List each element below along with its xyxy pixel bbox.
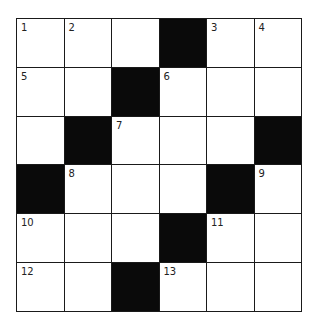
clue-number: 13 [164,266,177,278]
grid-cell-r4-c5[interactable] [255,214,302,262]
crossword-grid: 1 2 3 4 5 6 7 8 9 10 11 12 13 [16,18,302,312]
clue-number: 4 [259,22,265,34]
black-square [207,165,254,213]
grid-cell-r1-c5[interactable] [255,68,302,116]
grid-cell-r2-c0[interactable] [17,117,64,165]
grid-cell-r0-c5[interactable]: 4 [255,19,302,67]
grid-cell-r4-c0[interactable]: 10 [17,214,64,262]
grid-cell-r3-c5[interactable]: 9 [255,165,302,213]
clue-number: 9 [259,168,265,180]
black-square [112,263,159,311]
grid-cell-r4-c1[interactable] [65,214,112,262]
grid-cell-r2-c2[interactable]: 7 [112,117,159,165]
grid-cell-r5-c5[interactable] [255,263,302,311]
grid-cell-r1-c4[interactable] [207,68,254,116]
clue-number: 1 [21,22,27,34]
clue-number: 6 [164,71,170,83]
clue-number: 12 [21,266,34,278]
grid-cell-r1-c3[interactable]: 6 [160,68,207,116]
grid-cell-r3-c1[interactable]: 8 [65,165,112,213]
clue-number: 3 [211,22,217,34]
clue-number: 7 [116,120,122,132]
clue-number: 10 [21,217,34,229]
grid-cell-r3-c3[interactable] [160,165,207,213]
black-square [112,68,159,116]
clue-number: 2 [69,22,75,34]
grid-cell-r5-c3[interactable]: 13 [160,263,207,311]
grid-cell-r0-c4[interactable]: 3 [207,19,254,67]
grid-cell-r0-c2[interactable] [112,19,159,67]
black-square [160,214,207,262]
black-square [160,19,207,67]
grid-cell-r2-c4[interactable] [207,117,254,165]
grid-cell-r5-c0[interactable]: 12 [17,263,64,311]
grid-cell-r5-c4[interactable] [207,263,254,311]
grid-cell-r0-c1[interactable]: 2 [65,19,112,67]
grid-cell-r2-c3[interactable] [160,117,207,165]
clue-number: 5 [21,71,27,83]
clue-number: 8 [69,168,75,180]
grid-cell-r1-c1[interactable] [65,68,112,116]
grid-cell-r4-c2[interactable] [112,214,159,262]
grid-cell-r4-c4[interactable]: 11 [207,214,254,262]
grid-cell-r3-c2[interactable] [112,165,159,213]
black-square [65,117,112,165]
black-square [255,117,302,165]
clue-number: 11 [211,217,224,229]
grid-cell-r5-c1[interactable] [65,263,112,311]
grid-cell-r0-c0[interactable]: 1 [17,19,64,67]
grid-cell-r1-c0[interactable]: 5 [17,68,64,116]
black-square [17,165,64,213]
